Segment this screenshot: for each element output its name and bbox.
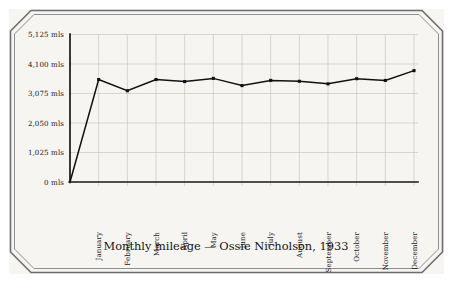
y-axis-tick-label: 3,075 mls bbox=[28, 89, 64, 98]
y-axis-tick-label: 2,050 mls bbox=[28, 119, 64, 128]
chart-plot-area: 0 mls1,025 mls2,050 mls3,075 mls4,100 ml… bbox=[0, 0, 453, 283]
data-point-marker bbox=[412, 69, 415, 72]
data-point-marker bbox=[298, 80, 301, 83]
x-axis-tick-label: January bbox=[94, 232, 103, 262]
data-point-marker bbox=[384, 79, 387, 82]
data-point-marker bbox=[183, 80, 186, 83]
data-point-marker bbox=[240, 84, 243, 87]
gridlines bbox=[70, 35, 418, 187]
y-axis-tick-labels: 0 mls1,025 mls2,050 mls3,075 mls4,100 ml… bbox=[28, 30, 64, 187]
axis-lines bbox=[69, 34, 418, 183]
x-axis-tick-label: December bbox=[410, 231, 419, 269]
y-axis-tick-label: 5,125 mls bbox=[28, 30, 64, 39]
data-point-marker bbox=[126, 89, 129, 92]
data-point-markers bbox=[97, 69, 415, 92]
data-point-marker bbox=[269, 79, 272, 82]
data-point-marker bbox=[355, 77, 358, 80]
chart-title: Monthly mileage — Ossie Nicholson, 1933 bbox=[104, 239, 349, 253]
x-axis-tick-label: November bbox=[381, 231, 390, 270]
data-point-marker bbox=[154, 78, 157, 81]
data-point-marker bbox=[326, 82, 329, 85]
y-axis-tick-label: 1,025 mls bbox=[28, 148, 64, 157]
data-point-marker bbox=[212, 77, 215, 80]
y-axis-tick-label: 4,100 mls bbox=[28, 60, 64, 69]
x-axis-tick-label: October bbox=[352, 232, 361, 262]
data-point-marker bbox=[97, 78, 100, 81]
y-axis-tick-label: 0 mls bbox=[44, 178, 64, 187]
